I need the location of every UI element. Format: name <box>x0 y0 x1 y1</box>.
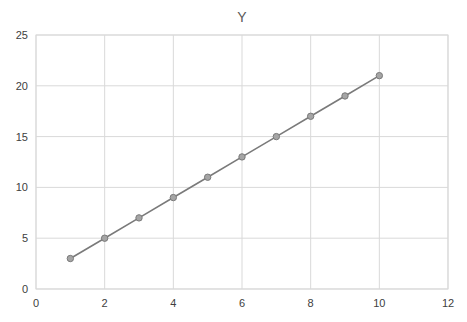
y-tick-label: 25 <box>16 29 28 41</box>
x-tick-label: 6 <box>239 297 245 309</box>
scatter-chart: Y 0510152025 024681012 <box>0 0 467 322</box>
data-point <box>67 255 73 261</box>
data-point <box>101 235 107 241</box>
x-tick-label: 8 <box>308 297 314 309</box>
x-tick-label: 0 <box>33 297 39 309</box>
y-tick-label: 10 <box>16 181 28 193</box>
data-point <box>376 72 382 78</box>
data-point <box>273 133 279 139</box>
gridlines <box>36 35 448 289</box>
y-tick-label: 15 <box>16 131 28 143</box>
series-line <box>70 76 379 259</box>
x-tick-label: 10 <box>373 297 385 309</box>
x-tick-label: 12 <box>442 297 454 309</box>
chart-title: Y <box>237 9 247 25</box>
y-tick-label: 5 <box>22 232 28 244</box>
y-tick-label: 0 <box>22 283 28 295</box>
data-point <box>136 215 142 221</box>
series-layer <box>67 72 382 261</box>
x-tick-label: 2 <box>102 297 108 309</box>
x-tick-label: 4 <box>170 297 176 309</box>
y-tick-label: 20 <box>16 80 28 92</box>
data-point <box>170 194 176 200</box>
y-axis-ticks: 0510152025 <box>16 29 28 295</box>
x-axis-ticks: 024681012 <box>33 297 454 309</box>
data-point <box>239 154 245 160</box>
data-point <box>307 113 313 119</box>
data-point <box>342 93 348 99</box>
data-point <box>204 174 210 180</box>
